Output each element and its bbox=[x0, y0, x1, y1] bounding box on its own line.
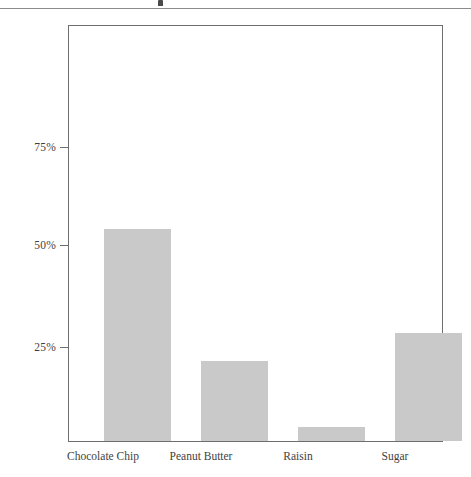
y-axis-label-50-wrap: 50% bbox=[0, 239, 56, 251]
y-axis-label-50: 50% bbox=[0, 239, 56, 251]
y-axis-label-75: 75% bbox=[0, 141, 56, 153]
bars-layer bbox=[68, 25, 443, 442]
y-axis-label-75-wrap: 75% bbox=[0, 141, 56, 153]
bar-peanut-butter bbox=[201, 361, 268, 441]
bar-sugar bbox=[395, 333, 462, 441]
bar-chocolate-chip bbox=[104, 229, 171, 441]
x-axis-label-sugar: Sugar bbox=[330, 449, 460, 463]
bar-raisin bbox=[298, 427, 365, 441]
y-axis-label-25: 25% bbox=[0, 341, 56, 353]
y-axis-label-25-wrap: 25% bbox=[0, 341, 56, 353]
bar-chart-figure: 75% 50% 25% Chocolate Chip Peanut Butter… bbox=[0, 0, 471, 477]
